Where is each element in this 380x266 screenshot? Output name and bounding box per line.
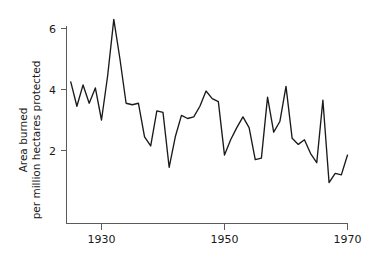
x-tick-label-1970: 1970 bbox=[334, 233, 362, 246]
data-series-line bbox=[71, 19, 348, 182]
x-tick-label-1930: 1930 bbox=[88, 233, 116, 246]
y-tick-label-2: 2 bbox=[49, 145, 56, 158]
chart-figure: 6 4 2 1930 1950 1970 Area burned per mil… bbox=[0, 0, 380, 266]
y-axis-label-line2: per million hectares protected bbox=[30, 61, 42, 220]
y-tick-label-4: 4 bbox=[49, 84, 56, 97]
y-tick-label-6: 6 bbox=[49, 23, 56, 36]
y-axis-label-line1: Area burned bbox=[17, 108, 29, 173]
x-tick-label-1950: 1950 bbox=[211, 233, 239, 246]
line-chart-plot: 6 4 2 1930 1950 1970 Area burned per mil… bbox=[0, 0, 380, 266]
